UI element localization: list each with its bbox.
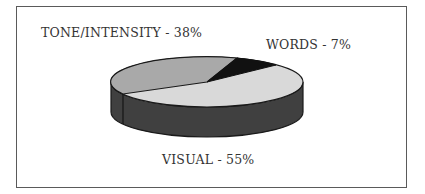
label-words: WORDS - 7% [266, 37, 351, 52]
label-tone-intensity: TONE/INTENSITY - 38% [41, 25, 202, 40]
label-visual: VISUAL - 55% [162, 152, 254, 167]
